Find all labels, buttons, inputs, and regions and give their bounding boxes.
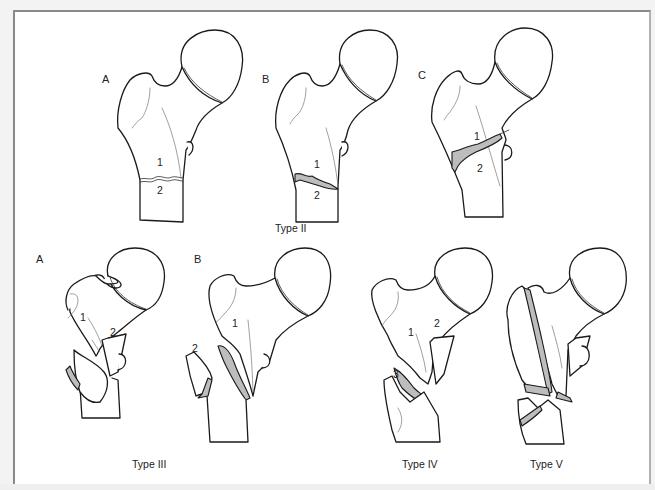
panel-type3-b: B 1 2 [186,248,331,442]
fragment-number: 2 [314,189,320,201]
panel-letter: B [194,253,201,265]
fragment-number: 1 [314,158,320,170]
panel-type2-b: B 1 2 [262,30,398,222]
caption-type-iii: Type III [132,458,166,470]
femur-outline [276,64,376,222]
panel-letter: A [36,253,44,265]
fragment-number: 2 [157,184,163,196]
panel-type5 [507,248,626,444]
lesser-trochanter [342,142,348,156]
fragment-number: 1 [80,311,86,323]
panel-letter: C [418,69,426,81]
panel-type4: 1 2 3 [372,248,493,442]
fragment-number: 2 [477,162,483,174]
fragment-number: 1 [474,130,480,142]
femur-outline [118,67,222,222]
fragment-number: 2 [434,317,440,329]
fragment-number: 3 [393,368,399,380]
fragment-number: 1 [232,317,238,329]
panel-letter: B [262,73,269,85]
panel-type2-a: A 1 2 [102,30,243,222]
trochanter-fragment [74,350,107,403]
fragment-number: 2 [110,326,116,338]
panel-type2-c: C 1 2 [418,28,553,217]
panel-letter: A [102,73,110,85]
caption-type-ii: Type II [275,222,307,234]
fragment-number: 2 [192,342,198,354]
femur-outline [432,62,532,217]
caption-type-v: Type V [530,458,563,470]
caption-type-iv: Type IV [402,458,438,470]
lesser-trochanter [505,145,512,160]
fragment-number: 1 [408,326,414,338]
panel-type3-a: A 1 2 [36,248,164,418]
femur-fracture-diagram: A 1 2 B 1 2 C [0,0,655,490]
fragment-number: 1 [157,156,163,168]
lesser-trochanter-fragment [430,336,454,384]
